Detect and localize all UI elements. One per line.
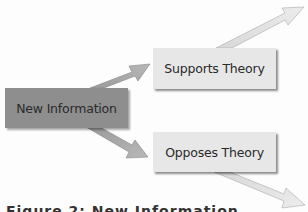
node-label: Opposes Theory [165, 145, 264, 160]
arrow-new-to-opposes [86, 127, 148, 158]
node-opposes-theory: Opposes Theory [153, 132, 276, 172]
node-label: New Information [16, 101, 117, 116]
arrow-new-to-supports [90, 64, 150, 88]
arrow-supports-out [216, 7, 304, 48]
figure-caption: Figure 2: New Information [6, 203, 239, 212]
node-label: Supports Theory [164, 61, 264, 76]
node-supports-theory: Supports Theory [153, 48, 276, 89]
node-new-information: New Information [5, 88, 128, 128]
